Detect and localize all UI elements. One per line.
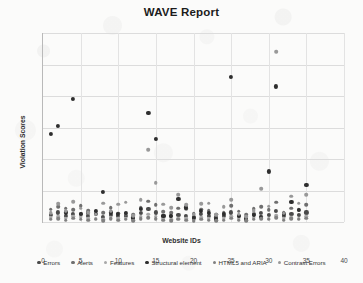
gridline-x-40: [344, 33, 345, 222]
data-point: [101, 211, 105, 215]
data-point: [139, 207, 143, 211]
x-axis-title: Website IDs: [0, 237, 363, 244]
legend-item-5[interactable]: Contrast Errors: [278, 259, 326, 266]
gridline-x-10: [118, 33, 119, 222]
data-point: [267, 204, 271, 208]
data-point: [86, 218, 90, 222]
data-point: [177, 218, 181, 222]
data-point: [56, 205, 60, 209]
data-point: [71, 200, 75, 204]
data-point: [282, 211, 286, 215]
legend-label: Features: [110, 259, 134, 266]
data-point: [169, 219, 173, 223]
data-point: [86, 211, 90, 215]
data-point: [147, 216, 151, 220]
gridline-x-20: [194, 33, 195, 222]
data-point: [267, 208, 271, 212]
data-point: [132, 214, 136, 218]
data-point: [267, 170, 271, 174]
data-point: [214, 219, 218, 223]
legend-label: Structural element: [151, 259, 201, 266]
data-point: [109, 217, 113, 221]
data-point: [274, 209, 278, 213]
data-point: [101, 219, 105, 223]
data-point: [274, 50, 278, 54]
data-point: [146, 207, 150, 211]
legend-label: HTML5 and ARIA: [219, 259, 267, 266]
data-point: [124, 201, 128, 205]
data-point: [49, 211, 53, 215]
data-point: [94, 213, 98, 217]
data-point: [222, 205, 226, 209]
data-point: [116, 203, 120, 207]
data-point: [101, 201, 105, 205]
data-point: [56, 202, 60, 206]
data-point: [146, 111, 150, 115]
data-point: [207, 201, 211, 205]
legend-label: Alerts: [77, 259, 93, 266]
data-point: [71, 216, 75, 220]
legend-item-1[interactable]: Alerts: [71, 259, 93, 266]
data-point: [162, 203, 166, 207]
data-point: [274, 201, 278, 205]
data-point: [177, 206, 181, 210]
plot-area: 0100200300400500600 0510152025303540: [43, 33, 344, 222]
data-point: [229, 75, 233, 79]
chart-legend: ErrorsAlertsFeaturesStructural elementHT…: [0, 259, 363, 266]
data-point: [199, 218, 203, 222]
data-point: [229, 204, 233, 208]
data-point: [147, 199, 151, 203]
data-point: [290, 194, 294, 198]
data-point: [305, 193, 309, 197]
data-point: [282, 218, 286, 222]
data-point: [124, 218, 128, 222]
data-point: [79, 218, 83, 222]
y-axis-title: Violation Scores: [19, 115, 26, 168]
data-point: [154, 217, 158, 221]
data-point: [297, 201, 301, 205]
data-point: [176, 197, 180, 201]
data-point: [147, 148, 151, 152]
data-point: [229, 198, 233, 202]
data-point: [169, 206, 173, 210]
data-point: [289, 200, 293, 204]
data-point: [222, 218, 226, 222]
data-point: [244, 215, 248, 219]
data-point: [48, 132, 52, 136]
legend-item-2[interactable]: Features: [104, 259, 134, 266]
data-point: [132, 219, 136, 223]
data-point: [192, 219, 196, 223]
legend-marker-icon: [104, 261, 108, 265]
data-point: [304, 183, 308, 187]
data-point: [207, 218, 211, 222]
data-point: [192, 213, 196, 217]
data-point: [229, 216, 233, 220]
data-point: [64, 209, 68, 213]
data-point: [56, 210, 60, 214]
data-point: [290, 206, 294, 210]
data-point: [244, 219, 248, 223]
data-point: [49, 218, 53, 222]
gridline-x-30: [269, 33, 270, 222]
data-point: [252, 209, 256, 213]
gridline-x-5: [81, 33, 82, 222]
data-point: [237, 213, 241, 217]
data-point: [64, 218, 68, 222]
data-point: [184, 203, 188, 207]
data-point: [109, 210, 113, 214]
legend-item-3[interactable]: Structural element: [145, 259, 201, 266]
legend-item-4[interactable]: HTML5 and ARIA: [213, 259, 267, 266]
data-point: [290, 217, 294, 221]
data-point: [184, 218, 188, 222]
gridline-x-15: [156, 33, 157, 222]
data-point: [101, 190, 105, 194]
legend-item-0[interactable]: Errors: [37, 259, 60, 266]
data-point: [199, 202, 203, 206]
data-point: [162, 218, 166, 222]
legend-marker-icon: [278, 261, 282, 265]
data-point: [154, 137, 158, 141]
data-point: [237, 218, 241, 222]
legend-marker-icon: [213, 261, 217, 265]
data-point: [56, 217, 60, 221]
data-point: [259, 187, 263, 191]
